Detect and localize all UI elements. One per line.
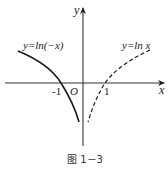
origin-label: O — [70, 86, 78, 97]
curve-ln-x — [88, 50, 150, 122]
tick-label-neg-1: -1 — [52, 86, 61, 97]
tick-label-1: 1 — [104, 86, 110, 97]
curve-label-ln-neg-x: y=ln(−x) — [23, 40, 64, 51]
figure-caption: 图 1－3 — [67, 155, 103, 165]
x-axis-label: x — [159, 84, 164, 96]
y-axis-label: y — [74, 4, 79, 16]
function-graph-figure: y x -1 O 1 y=ln(−x) y=ln x 图 1－3 — [0, 0, 168, 170]
graph-canvas — [0, 0, 168, 170]
curve-label-ln-x: y=ln x — [122, 40, 151, 51]
